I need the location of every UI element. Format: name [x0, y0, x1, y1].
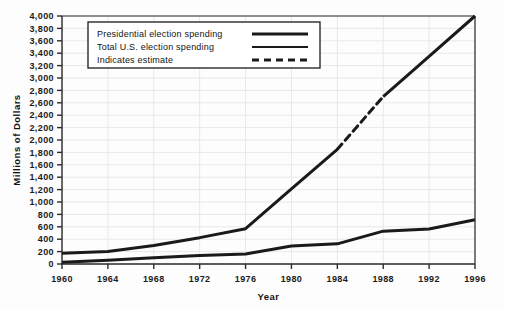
y-axis-tick-label: 2,400 [29, 110, 54, 120]
y-axis-tick-label: 2,600 [29, 98, 54, 108]
y-axis-tick-label: 2,200 [29, 123, 54, 133]
y-axis-tick-label: 1,400 [29, 172, 54, 182]
x-axis-tick-label: 1972 [189, 274, 211, 284]
x-axis-tick-label: 1960 [51, 274, 73, 284]
legend-label-0: Presidential election spending [97, 29, 223, 39]
x-axis-tick-label: 1996 [464, 274, 486, 284]
y-axis-tick-label: 1,200 [29, 185, 54, 195]
x-axis-tick-label: 1968 [143, 274, 165, 284]
y-axis-tick-label: 200 [38, 247, 54, 257]
x-axis-tick-label: 1976 [235, 274, 257, 284]
x-axis-tick-label: 1992 [418, 274, 440, 284]
y-axis-tick-label: 1,800 [29, 148, 54, 158]
y-axis-tick-label: 600 [38, 222, 54, 232]
legend-label-2: Indicates estimate [97, 55, 173, 65]
y-axis-tick-label: 3,400 [29, 48, 54, 58]
y-axis-tick-label: 1,600 [29, 160, 54, 170]
legend-label-1: Total U.S. election spending [97, 42, 214, 52]
y-axis-tick-label: 3,600 [29, 36, 54, 46]
x-axis-title: Year [257, 291, 279, 302]
y-axis-tick-label: 2,000 [29, 135, 54, 145]
x-axis-tick-label: 1984 [327, 274, 349, 284]
x-axis-tick-label: 1964 [97, 274, 119, 284]
y-axis-tick-label: 3,200 [29, 61, 54, 71]
y-axis-tick-label: 4,000 [29, 11, 54, 21]
x-axis-tick-label: 1988 [372, 274, 394, 284]
y-axis-tick-label: 2,800 [29, 86, 54, 96]
y-axis-tick-label: 400 [38, 234, 54, 244]
chart-canvas: 02004006008001,0001,2001,4001,6001,8002,… [0, 0, 505, 310]
y-axis-tick-label: 3,000 [29, 73, 54, 83]
x-axis-tick-label: 1980 [281, 274, 303, 284]
election-spending-line-chart: 02004006008001,0001,2001,4001,6001,8002,… [0, 0, 505, 310]
y-axis-tick-label: 0 [49, 259, 54, 269]
y-axis-tick-label: 800 [38, 210, 54, 220]
y-axis-tick-label: 1,000 [29, 197, 54, 207]
y-axis-tick-label: 3,800 [29, 24, 54, 34]
y-axis-title: Millions of Dollars [11, 94, 22, 185]
